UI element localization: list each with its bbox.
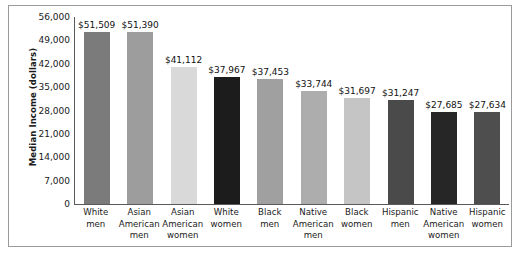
bar-value-label: $51,390 bbox=[122, 20, 159, 30]
bar-value-label: $27,685 bbox=[425, 100, 462, 110]
bar-value-label: $51,509 bbox=[78, 20, 115, 30]
bar-slot: $27,634 bbox=[466, 17, 509, 204]
x-label-line: Hispanic bbox=[379, 207, 423, 219]
bar-value-label: $31,697 bbox=[339, 86, 376, 96]
bar-slot: $51,509 bbox=[75, 17, 118, 204]
bar-series: $51,509$51,390$41,112$37,967$37,453$33,7… bbox=[75, 17, 509, 204]
x-label-line: men bbox=[292, 230, 336, 242]
y-axis-tick-28000: 28,000 bbox=[39, 106, 71, 116]
bar-black-men[interactable]: $37,453 bbox=[257, 79, 283, 204]
x-label-line: White bbox=[74, 207, 118, 219]
x-label-line: men bbox=[248, 219, 292, 231]
y-axis-tick-56000: 56,000 bbox=[39, 12, 71, 22]
x-label-native-american-men: NativeAmericanmen bbox=[292, 207, 336, 242]
x-label-line: women bbox=[161, 230, 205, 242]
x-label-line: men bbox=[118, 230, 162, 242]
bar-asian-american-women[interactable]: $41,112 bbox=[171, 67, 197, 204]
x-label-hispanic-men: Hispanicmen bbox=[379, 207, 423, 242]
bar-value-label: $37,967 bbox=[208, 65, 245, 75]
y-axis-tick-21000: 21,000 bbox=[39, 129, 71, 139]
x-label-line: American bbox=[422, 219, 466, 231]
y-axis-tick-49000: 49,000 bbox=[39, 35, 71, 45]
x-label-line: American bbox=[292, 219, 336, 231]
x-label-line: Black bbox=[335, 207, 379, 219]
x-label-line: Native bbox=[422, 207, 466, 219]
x-label-line: Native bbox=[292, 207, 336, 219]
x-label-line: Hispanic bbox=[466, 207, 510, 219]
x-label-black-women: Blackwomen bbox=[335, 207, 379, 242]
x-label-black-men: Blackmen bbox=[248, 207, 292, 242]
plot-area: 56,00049,00042,00035,00028,00021,00014,0… bbox=[74, 17, 509, 205]
y-axis-tick-14000: 14,000 bbox=[39, 152, 71, 162]
x-label-line: Black bbox=[248, 207, 292, 219]
x-label-white-men: Whitemen bbox=[74, 207, 118, 242]
bar-hispanic-women[interactable]: $27,634 bbox=[474, 112, 500, 204]
x-label-line: American bbox=[161, 219, 205, 231]
bar-slot: $37,453 bbox=[249, 17, 292, 204]
bar-white-men[interactable]: $51,509 bbox=[84, 32, 110, 204]
bar-slot: $31,697 bbox=[335, 17, 378, 204]
x-label-line: women bbox=[422, 230, 466, 242]
bar-white-women[interactable]: $37,967 bbox=[214, 77, 240, 204]
y-axis-tick-0: 0 bbox=[64, 199, 70, 209]
x-label-asian-american-men: AsianAmericanmen bbox=[118, 207, 162, 242]
bar-slot: $27,685 bbox=[422, 17, 465, 204]
bar-slot: $37,967 bbox=[205, 17, 248, 204]
x-label-line: women bbox=[205, 219, 249, 231]
bar-slot: $31,247 bbox=[379, 17, 422, 204]
bar-value-label: $33,744 bbox=[295, 79, 332, 89]
x-label-white-women: Whitewomen bbox=[205, 207, 249, 242]
x-axis-category-labels: WhitemenAsianAmericanmenAsianAmericanwom… bbox=[74, 207, 509, 242]
x-label-line: women bbox=[466, 219, 510, 231]
x-label-asian-american-women: AsianAmericanwomen bbox=[161, 207, 205, 242]
x-label-line: men bbox=[74, 219, 118, 231]
x-label-hispanic-women: Hispanicwomen bbox=[466, 207, 510, 242]
bar-hispanic-men[interactable]: $31,247 bbox=[388, 100, 414, 204]
y-axis-tick-42000: 42,000 bbox=[39, 59, 71, 69]
bar-asian-american-men[interactable]: $51,390 bbox=[127, 32, 153, 204]
x-label-line: women bbox=[335, 219, 379, 231]
y-axis-title: Median Income (dollars) bbox=[28, 37, 38, 177]
x-label-line: Asian bbox=[118, 207, 162, 219]
bar-native-american-men[interactable]: $33,744 bbox=[301, 91, 327, 204]
bar-native-american-women[interactable]: $27,685 bbox=[431, 112, 457, 204]
bar-value-label: $27,634 bbox=[469, 100, 506, 110]
bar-value-label: $31,247 bbox=[382, 88, 419, 98]
bar-slot: $33,744 bbox=[292, 17, 335, 204]
bar-black-women[interactable]: $31,697 bbox=[344, 98, 370, 204]
bar-value-label: $41,112 bbox=[165, 55, 202, 65]
figure-frame: Median Income (dollars) 56,00049,00042,0… bbox=[8, 5, 512, 247]
x-label-native-american-women: NativeAmericanwomen bbox=[422, 207, 466, 242]
x-label-line: men bbox=[379, 219, 423, 231]
x-label-line: Asian bbox=[161, 207, 205, 219]
y-axis-tick-7000: 7,000 bbox=[44, 176, 70, 186]
bar-slot: $41,112 bbox=[162, 17, 205, 204]
y-axis-tick-35000: 35,000 bbox=[39, 82, 71, 92]
bar-slot: $51,390 bbox=[118, 17, 161, 204]
bar-value-label: $37,453 bbox=[252, 67, 289, 77]
x-label-line: American bbox=[118, 219, 162, 231]
x-label-line: White bbox=[205, 207, 249, 219]
